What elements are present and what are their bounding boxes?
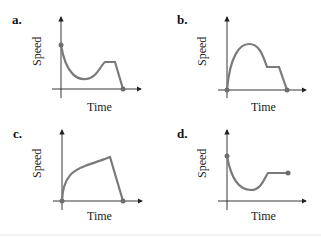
graph-panel-a: a. Speed Time xyxy=(0,0,160,118)
graph-panel-d: d. Speed Time xyxy=(160,118,320,236)
graph-panel-c: c. Speed Time xyxy=(0,118,160,236)
divider xyxy=(0,234,321,236)
speed-time-graph xyxy=(0,0,160,118)
speed-time-graph xyxy=(0,118,160,236)
speed-time-graph xyxy=(160,0,321,118)
graph-panel-b: b. Speed Time xyxy=(160,0,320,118)
speed-time-graph xyxy=(160,118,321,236)
